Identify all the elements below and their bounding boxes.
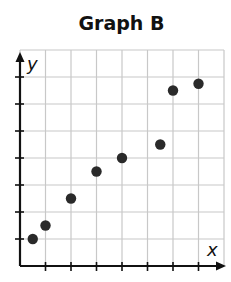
data-point xyxy=(117,153,127,163)
data-point xyxy=(168,85,178,95)
data-point xyxy=(155,139,165,149)
data-points xyxy=(28,79,204,245)
data-point xyxy=(193,79,203,89)
y-axis-label: y xyxy=(26,53,38,74)
y-axis-arrow-icon xyxy=(16,52,25,62)
data-point xyxy=(40,220,50,230)
axis-ticks xyxy=(15,77,199,271)
data-point xyxy=(66,193,76,203)
x-axis-label: x xyxy=(206,239,218,260)
data-point xyxy=(28,234,38,244)
scatter-plot: y x xyxy=(0,0,231,282)
data-point xyxy=(91,166,101,176)
